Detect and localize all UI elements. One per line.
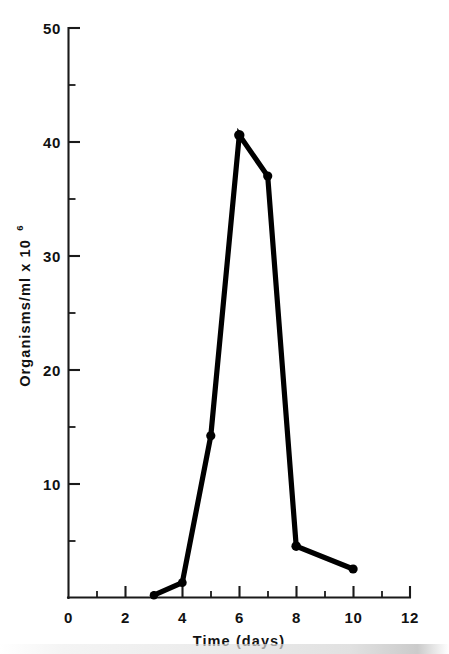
data-point-day-6 (234, 130, 244, 140)
data-point-day-8 (291, 541, 301, 551)
data-point-day-4 (178, 578, 187, 587)
y-tick-label-40: 40 (43, 134, 61, 151)
x-tick-label-0: 0 (64, 609, 73, 626)
chart-container: 50 40 30 20 10 0 2 4 6 8 10 12 Time (day… (0, 0, 449, 654)
data-points-group (150, 130, 358, 600)
x-tick-label-6: 6 (235, 609, 244, 626)
y-tick-label-10: 10 (43, 476, 61, 493)
y-tick-label-30: 30 (43, 248, 61, 265)
data-point-day-7 (263, 172, 272, 181)
x-tick-label-4: 4 (178, 609, 187, 626)
y-axis-title: Organisms/ml x 10 (17, 239, 33, 387)
y-axis-major-ticks (69, 28, 81, 484)
y-tick-label-20: 20 (43, 362, 61, 379)
y-tick-label-50: 50 (43, 20, 61, 37)
x-tick-label-12: 12 (401, 609, 419, 626)
data-point-day-10 (349, 564, 358, 573)
y-axis-title-exponent: 6 (14, 225, 25, 230)
x-axis-title: Time (days) (193, 633, 285, 649)
x-tick-label-10: 10 (345, 609, 363, 626)
x-tick-label-8: 8 (292, 609, 301, 626)
data-point-day-5 (206, 431, 215, 440)
x-tick-label-2: 2 (121, 609, 130, 626)
data-series-line (154, 135, 353, 595)
data-point-day-3 (150, 591, 158, 599)
y-axis-title-group: Organisms/ml x 10 6 (14, 225, 33, 386)
line-chart-plot: 50 40 30 20 10 0 2 4 6 8 10 12 Time (day… (0, 0, 449, 654)
